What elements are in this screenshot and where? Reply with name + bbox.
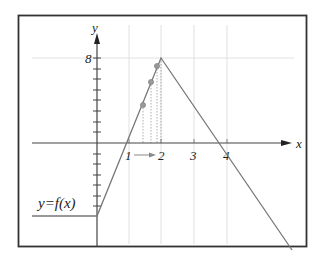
x-axis-label: x [295,136,302,151]
x-axis: x 1 2 3 4 [32,136,302,163]
y-axis-label: y [90,20,98,35]
dotted-guides [143,58,161,143]
x-tick-label-1: 1 [125,148,132,163]
figure-frame [19,16,307,247]
sample-point [154,63,159,68]
x-tick-label-2: 2 [158,148,165,163]
function-graph: y 8 x 1 2 3 4 y=f(x) [0,0,328,268]
approach-arrow [134,153,156,158]
y-tick-label-8: 8 [85,51,92,66]
sample-point [140,102,145,107]
sample-point [148,79,153,84]
grid-lines [32,25,294,244]
function-label: y=f(x) [36,195,76,212]
arrow-right-icon [149,153,156,158]
x-axis-arrow-icon [281,140,292,146]
x-tick-label-3: 3 [189,148,197,163]
